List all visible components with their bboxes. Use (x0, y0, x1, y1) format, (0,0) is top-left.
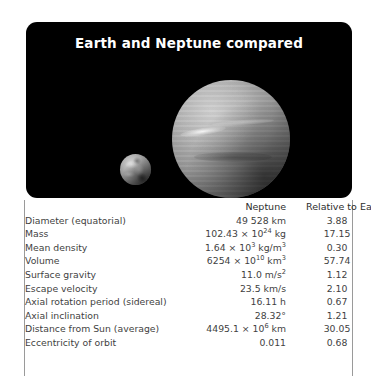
table-row: Escape velocity23.5 km/s2.10 (25, 282, 370, 296)
neptune-value: 16.11 h (177, 295, 306, 309)
comparison-table-container: Neptune Relative to Earth Diameter (equa… (24, 200, 353, 376)
neptune-planet-image (172, 80, 290, 198)
row-label: Axial inclination (25, 309, 177, 323)
neptune-value: 4495.1 × 106 km (177, 322, 306, 336)
row-label: Surface gravity (25, 268, 177, 282)
row-label: Axial rotation period (sidereal) (25, 295, 177, 309)
table-row: Axial rotation period (sidereal)16.11 h0… (25, 295, 370, 309)
relative-to-earth-value: 0.67 (306, 295, 370, 309)
figure-image-panel: Earth and Neptune compared (26, 22, 352, 198)
table-row: Volume6254 × 1010 km357.74 (25, 254, 370, 268)
neptune-terminator-shading (172, 80, 290, 198)
table-row: Mean density1.64 × 103 kg/m30.30 (25, 241, 370, 255)
table-body: Diameter (equatorial)49 528 km3.88Mass10… (25, 214, 370, 350)
neptune-value: 0.011 (177, 336, 306, 350)
column-header-neptune: Neptune (177, 200, 306, 214)
relative-to-earth-value: 3.88 (306, 214, 370, 228)
neptune-value: 1.64 × 103 kg/m3 (177, 241, 306, 255)
row-label: Escape velocity (25, 282, 177, 296)
relative-to-earth-value: 2.10 (306, 282, 370, 296)
comparison-table: Neptune Relative to Earth Diameter (equa… (25, 200, 370, 350)
row-label: Mean density (25, 241, 177, 255)
table-row: Mass102.43 × 1024 kg17.15 (25, 227, 370, 241)
row-label: Eccentricity of orbit (25, 336, 177, 350)
table-row: Surface gravity11.0 m/s21.12 (25, 268, 370, 282)
table-row: Distance from Sun (average)4495.1 × 106 … (25, 322, 370, 336)
row-label: Mass (25, 227, 177, 241)
column-header-property (25, 200, 177, 214)
earth-planet-image (120, 154, 151, 185)
relative-to-earth-value: 1.12 (306, 268, 370, 282)
table-row: Axial inclination28.32°1.21 (25, 309, 370, 323)
neptune-value: 102.43 × 1024 kg (177, 227, 306, 241)
table-row: Diameter (equatorial)49 528 km3.88 (25, 214, 370, 228)
relative-to-earth-value: 1.21 (306, 309, 370, 323)
relative-to-earth-value: 17.15 (306, 227, 370, 241)
relative-to-earth-value: 0.68 (306, 336, 370, 350)
neptune-value: 11.0 m/s2 (177, 268, 306, 282)
neptune-value: 49 528 km (177, 214, 306, 228)
relative-to-earth-value: 57.74 (306, 254, 370, 268)
row-label: Distance from Sun (average) (25, 322, 177, 336)
table-row: Eccentricity of orbit0.0110.68 (25, 336, 370, 350)
table-header: Neptune Relative to Earth (25, 200, 370, 214)
table-header-row: Neptune Relative to Earth (25, 200, 370, 214)
row-label: Diameter (equatorial) (25, 214, 177, 228)
column-header-relative: Relative to Earth (306, 200, 370, 214)
neptune-value: 6254 × 1010 km3 (177, 254, 306, 268)
relative-to-earth-value: 0.30 (306, 241, 370, 255)
neptune-value: 23.5 km/s (177, 282, 306, 296)
row-label: Volume (25, 254, 177, 268)
earth-terminator-shading (120, 154, 151, 185)
neptune-value: 28.32° (177, 309, 306, 323)
figure-title: Earth and Neptune compared (26, 35, 352, 51)
relative-to-earth-value: 30.05 (306, 322, 370, 336)
